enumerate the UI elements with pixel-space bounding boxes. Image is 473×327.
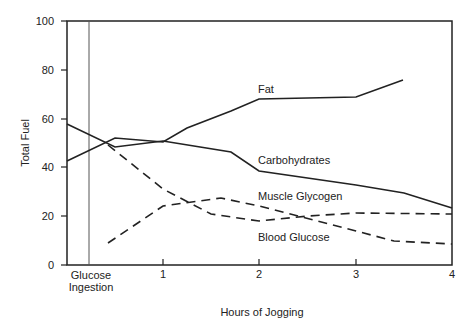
plot-frame: [67, 21, 452, 265]
x-tick-1: 1: [160, 268, 166, 280]
label-carbohydrates: Carbohydrates: [258, 154, 331, 166]
y-axis-title: Total Fuel: [19, 119, 31, 167]
y-tick-60: 60: [42, 113, 54, 125]
x-tick-2: 2: [256, 268, 262, 280]
label-fat: Fat: [258, 83, 274, 95]
glucose-label-line2: Ingestion: [69, 281, 114, 293]
y-axis: [61, 21, 67, 265]
glucose-label-line1: Glucose: [71, 269, 111, 281]
y-tick-40: 40: [42, 161, 54, 173]
x-tick-4: 4: [449, 268, 455, 280]
x-axis: [163, 259, 356, 265]
label-muscle-glycogen: Muscle Glycogen: [258, 190, 342, 202]
y-tick-20: 20: [42, 210, 54, 222]
y-tick-0: 0: [48, 259, 54, 271]
y-tick-80: 80: [42, 64, 54, 76]
label-blood-glucose: Blood Glucose: [258, 231, 330, 243]
series-fat: [67, 80, 403, 161]
x-axis-title: Hours of Jogging: [220, 306, 303, 318]
fuel-chart: 0 20 40 60 80 100 1 2 3 4 Glucose Ingest…: [0, 0, 473, 327]
x-tick-3: 3: [353, 268, 359, 280]
y-tick-100: 100: [36, 15, 54, 27]
